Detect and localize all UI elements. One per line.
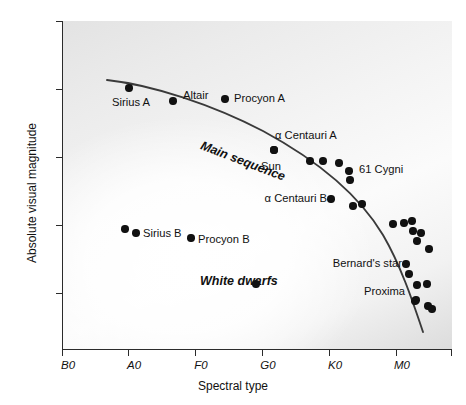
star-label: Altair <box>183 90 209 101</box>
star-point-unlabeled <box>121 225 128 232</box>
star-point-unlabeled <box>319 157 326 164</box>
star-point-unlabeled <box>335 159 342 166</box>
star-point-unlabeled <box>408 217 415 224</box>
plot-area: Sirius AAltairProcyon Aα Centauri ASun61… <box>62 21 452 350</box>
hr-diagram-figure: -5 0 +5 +10 +15 Absolute visual magnitud… <box>0 0 466 405</box>
star-point-unlabeled <box>389 220 396 227</box>
y-axis-title: Absolute visual magnitude <box>25 83 39 303</box>
star-label: 61 Cygni <box>359 164 403 175</box>
star-point-unlabeled <box>413 281 420 288</box>
star-label: Procyon B <box>198 234 250 245</box>
x-tick-label: A0 <box>127 359 141 371</box>
star-point-unlabeled <box>425 245 432 252</box>
star-point-unlabeled <box>413 237 420 244</box>
star-label: Sirius B <box>143 228 182 239</box>
star-point-unlabeled <box>358 200 365 207</box>
x-tick-mark <box>62 350 63 356</box>
star-point <box>169 97 176 104</box>
star-point <box>402 260 409 267</box>
x-tick-mark <box>329 350 330 356</box>
x-tick-mark <box>195 350 196 356</box>
main-sequence-curve-svg <box>63 21 453 350</box>
star-point-unlabeled <box>400 219 407 226</box>
x-axis-title: Spectral type <box>0 379 466 393</box>
star-point-unlabeled <box>349 202 356 209</box>
star-label: Procyon A <box>234 93 285 104</box>
star-point-unlabeled <box>345 167 352 174</box>
star-label: α Centauri A <box>275 130 337 141</box>
star-point <box>125 84 132 91</box>
star-point-unlabeled <box>423 280 430 287</box>
star-point-unlabeled <box>409 227 416 234</box>
star-point <box>221 95 228 102</box>
star-point <box>346 176 353 183</box>
star-point-unlabeled <box>417 229 424 236</box>
x-axis-end-mark <box>451 350 452 356</box>
star-label: Sirius A <box>112 97 150 108</box>
region-label-white-dwarfs: White dwarfs <box>200 275 278 288</box>
x-tick-label: F0 <box>194 359 207 371</box>
x-tick-mark <box>396 350 397 356</box>
star-point-unlabeled <box>428 305 435 312</box>
star-label: α Centauri B <box>265 193 327 204</box>
star-point <box>270 146 277 153</box>
star-point-unlabeled <box>411 297 418 304</box>
star-point <box>187 234 194 241</box>
x-tick-mark <box>128 350 129 356</box>
x-tick-label: K0 <box>328 359 342 371</box>
star-point <box>132 229 139 236</box>
x-tick-mark <box>262 350 263 356</box>
x-tick-label: B0 <box>61 359 75 371</box>
star-point <box>327 195 334 202</box>
x-tick-label: G0 <box>260 359 275 371</box>
star-label: Bernard's star <box>333 258 402 269</box>
star-label: Proxima <box>364 286 405 297</box>
x-tick-label: M0 <box>394 359 410 371</box>
star-point-unlabeled <box>405 270 412 277</box>
star-point-unlabeled <box>306 157 313 164</box>
